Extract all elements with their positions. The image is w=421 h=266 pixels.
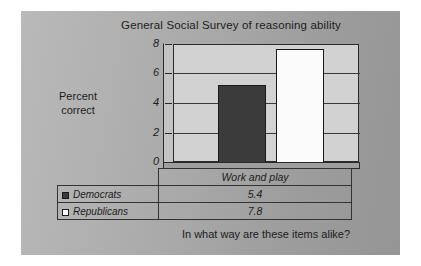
screenshot-root: General Social Survey of reasoning abili… — [0, 0, 421, 266]
legend-swatch-filled-square-icon — [62, 192, 69, 199]
y-tick-label-4: 4 — [133, 96, 159, 108]
y-tick-label-8: 8 — [133, 37, 159, 49]
chart-title: General Social Survey of reasoning abili… — [81, 19, 381, 31]
y-axis-title-line-1: Percent — [37, 89, 119, 103]
y-axis-title-line-2: correct — [37, 103, 119, 117]
gridline-6 — [173, 73, 360, 74]
chart-data-table: Work and play Democrats 5.4 Republicans … — [57, 168, 352, 220]
legend-label-republicans: Republicans — [73, 206, 128, 217]
legend-item-democrats: Democrats — [58, 186, 159, 203]
plot-area: 8 6 4 2 0 — [131, 41, 366, 171]
table-row: Democrats 5.4 — [58, 186, 352, 203]
slide-caption: In what way are these items alike? — [141, 228, 391, 240]
presentation-slide: General Social Survey of reasoning abili… — [21, 11, 400, 255]
y-tick-label-2: 2 — [133, 126, 159, 138]
legend-item-republicans: Republicans — [58, 203, 159, 220]
y-tick-8 — [165, 44, 172, 45]
y-tick-2 — [165, 133, 172, 134]
y-axis-title: Percent correct — [37, 89, 119, 117]
legend-swatch-open-square-icon — [62, 209, 69, 216]
bar-republicans-work-and-play — [276, 49, 324, 164]
table-row: Republicans 7.8 — [58, 203, 352, 220]
table-cell-value-democrats: 5.4 — [159, 186, 352, 203]
table-cell-value-republicans: 7.8 — [159, 203, 352, 220]
bar-democrats-work-and-play — [218, 85, 266, 164]
y-tick-6 — [165, 73, 172, 74]
y-tick-4 — [165, 103, 172, 104]
gridline-4 — [173, 103, 360, 104]
y-tick-label-6: 6 — [133, 66, 159, 78]
gridline-2 — [173, 133, 360, 134]
y-tick-label-0: 0 — [133, 155, 159, 167]
table-row-category: Work and play — [58, 169, 352, 186]
legend-label-democrats: Democrats — [73, 189, 121, 200]
table-cell-category-label: Work and play — [159, 169, 352, 186]
table-cell-blank — [58, 169, 159, 186]
